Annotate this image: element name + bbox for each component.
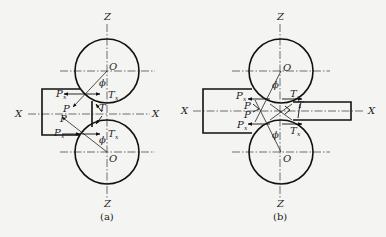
label-P-bottom-b: P [243, 109, 251, 120]
roll-center-bottom-a: O [109, 153, 117, 164]
z-label-top-a: Z [103, 11, 112, 22]
x-label-right-b: X [367, 105, 376, 116]
angle-phi-top-b: ϕ [272, 79, 279, 90]
panel-b: Z Z X X O O ϕ ϕ P x P P P x T x T x T (b… [180, 11, 376, 222]
roll-center-bottom-b: O [283, 153, 291, 164]
panel-a: Z Z X X O O ϕ ϕ P x P P P x T x T x T (a… [14, 11, 160, 222]
label-Px-bottom-b: P [236, 119, 244, 130]
x-label-right-a: X [151, 108, 160, 119]
z-label-bottom-a: Z [103, 198, 112, 209]
label-Tx-bottom-sub-b: x [297, 130, 301, 137]
angle-phi-top-a: ϕ [99, 77, 106, 88]
caption-a: (a) [100, 211, 114, 222]
caption-b: (b) [273, 211, 287, 222]
label-P-bottom-a: P [59, 113, 67, 124]
x-label-left-b: X [180, 105, 189, 116]
label-Px-bottom-sub-b: x [244, 124, 248, 131]
label-Tx-top-sub-a: x [115, 94, 119, 101]
radial-line-bottom-b [255, 100, 281, 152]
label-Px-bottom-a: P [53, 127, 61, 138]
label-Px-top-a: P [55, 88, 63, 99]
label-Px-top-b: P [235, 90, 243, 101]
label-Tx-bottom-sub-a: x [115, 133, 119, 140]
roll-center-top-a: O [109, 61, 117, 72]
z-label-bottom-b: Z [276, 198, 285, 209]
z-label-top-b: Z [276, 11, 285, 22]
label-T-b: T [297, 99, 305, 110]
roll-center-top-b: O [283, 62, 291, 73]
angle-phi-bottom-b: ϕ [272, 129, 279, 140]
rolling-force-diagram: Z Z X X O O ϕ ϕ P x P P P x T x T x T (a… [0, 0, 386, 237]
x-label-left-a: X [14, 108, 23, 119]
angle-phi-bottom-a: ϕ [99, 134, 106, 145]
